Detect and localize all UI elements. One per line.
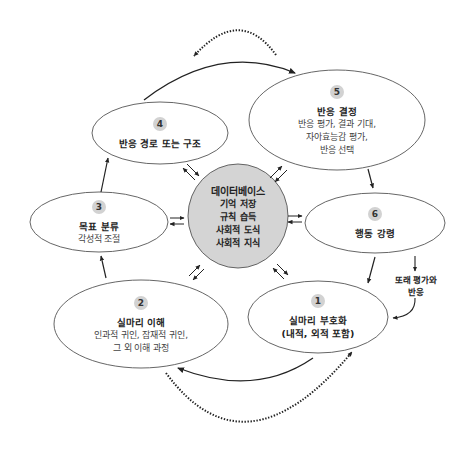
step-badge: 3: [92, 200, 106, 214]
node-detail: 자아효능감 평가,: [306, 131, 368, 144]
node-detail: 반응 선택: [320, 144, 355, 157]
dotted-feedback-top: [194, 30, 276, 56]
node-detail: 각성적 조절: [78, 233, 121, 246]
db-link-3: [170, 218, 184, 224]
node-title: 반응 경로 또는 구조: [119, 137, 201, 150]
node-behavioral-enactment: 6 행동 강령: [305, 193, 445, 253]
node-response-decision: 5 반응 결정 반응 평가, 결과 기대, 자아효능감 평가, 반응 선택: [249, 72, 425, 170]
arrow-6-to-1: [368, 257, 375, 283]
step-badge: 1: [311, 294, 325, 308]
node-goal-clarification: 3 목표 분류 각성적 조절: [30, 193, 168, 252]
peer-evaluation-note: 또래 평가와 반응: [383, 274, 449, 298]
node-cue-interpretation: 2 실마리 이해 인과적 귀인, 잠재적 귀인, 그 외 이해 과정: [54, 283, 228, 368]
step-badge: 5: [330, 85, 344, 99]
node-detail: (내적, 외적 포함): [282, 327, 355, 340]
node-detail: 반응 평가, 결과 기대,: [298, 118, 376, 131]
node-title: 목표 분류: [79, 220, 118, 233]
database-item: 사회적 도식: [216, 224, 259, 237]
note-line: 또래 평가와: [383, 274, 449, 286]
step-badge: 6: [368, 207, 382, 221]
database-item: 기억 저장: [220, 198, 255, 211]
node-detail: 인과적 귀인, 잠재적 귀인,: [94, 329, 188, 342]
database-item: 사회적 지식: [216, 237, 259, 250]
node-title: 반응 결정: [317, 105, 356, 118]
note-line: 반응: [383, 286, 449, 298]
node-cue-encoding: 1 실마리 부호화 (내적, 외적 포함): [248, 281, 388, 353]
node-title: 실마리 이해: [117, 316, 165, 329]
step-badge: 2: [134, 296, 148, 310]
arrow-5-to-6: [368, 169, 373, 188]
database-title: 데이터베이스: [211, 185, 265, 198]
db-link-6: [288, 216, 302, 222]
database-item: 규칙 습득: [220, 211, 255, 224]
arrow-peer-to-1: [393, 298, 415, 318]
arrow-2-to-3: [101, 256, 106, 278]
node-title: 실마리 부호화: [289, 314, 346, 327]
node-detail: 그 외 이해 과정: [113, 342, 170, 355]
database-node: 데이터베이스 기억 저장 규칙 습득 사회적 도식 사회적 지식: [188, 166, 288, 268]
node-response-access: 4 반응 경로 또는 구조: [92, 102, 228, 164]
step-badge: 4: [153, 117, 167, 131]
node-title: 행동 강령: [355, 227, 394, 240]
